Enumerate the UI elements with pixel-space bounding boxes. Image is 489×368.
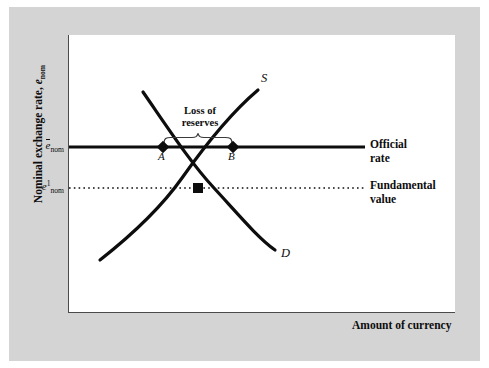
point-marker-equilibrium bbox=[193, 183, 203, 193]
y-axis-title-subscript: nom bbox=[38, 65, 47, 79]
point-label-a: A bbox=[158, 150, 165, 163]
official-rate-label-line1: Official bbox=[370, 138, 407, 152]
y-tick-e1-subscript: nom bbox=[50, 186, 64, 195]
point-label-b: B bbox=[228, 150, 235, 163]
loss-of-reserves-label-line1: Loss of bbox=[167, 105, 233, 117]
x-axis-title: Amount of currency bbox=[352, 319, 451, 333]
y-tick-label-fundamental-value: e1nom bbox=[24, 180, 64, 193]
figure-container: Nominal exchange rate, enom Amount of cu… bbox=[0, 0, 489, 368]
demand-curve-label: D bbox=[281, 246, 290, 261]
y-axis-title-variable: e bbox=[32, 79, 44, 84]
fundamental-value-label: Fundamental value bbox=[370, 179, 436, 206]
official-rate-label: Official rate bbox=[370, 138, 407, 165]
supply-curve-label: S bbox=[261, 71, 267, 86]
fundamental-value-label-line1: Fundamental bbox=[370, 179, 436, 193]
loss-of-reserves-label-line2: reserves bbox=[167, 117, 233, 129]
y-tick-label-official-rate: enom bbox=[24, 139, 64, 152]
y-axis-title: Nominal exchange rate, enom bbox=[32, 34, 44, 234]
y-tick-e1-variable: e bbox=[42, 180, 47, 192]
fundamental-value-label-line2: value bbox=[370, 193, 436, 207]
y-tick-ebar-subscript: nom bbox=[50, 145, 64, 154]
loss-of-reserves-label: Loss of reserves bbox=[167, 105, 233, 130]
official-rate-label-line2: rate bbox=[370, 152, 407, 166]
